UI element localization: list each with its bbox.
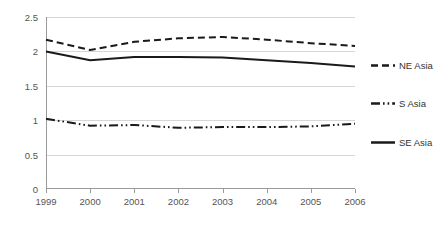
legend-item[interactable]: SE Asia	[371, 137, 432, 148]
x-axis-tick-label: 2004	[256, 196, 277, 207]
legend-label: NE Asia	[399, 60, 433, 71]
x-axis-tick	[355, 189, 356, 193]
x-axis-tick	[223, 189, 224, 193]
x-axis-tick-label: 2003	[212, 196, 233, 207]
y-axis-tick-label: 1	[2, 115, 38, 126]
y-axis-tick-label: 2.5	[2, 12, 38, 23]
line-chart: 00.511.522.5 199920002001200220032004200…	[0, 0, 440, 231]
legend-label: SE Asia	[399, 137, 432, 148]
y-axis-tick-label: 0.5	[2, 149, 38, 160]
x-axis-tick	[267, 189, 268, 193]
x-axis-tick-label: 2000	[80, 196, 101, 207]
x-axis-tick-label: 2005	[300, 196, 321, 207]
x-axis-tick	[311, 189, 312, 193]
y-axis-tick-label: 0	[2, 184, 38, 195]
legend-line-sample	[371, 98, 395, 108]
x-axis-tick-label: 2002	[168, 196, 189, 207]
legend-line-sample	[371, 60, 395, 70]
y-axis-tick-label: 2	[2, 46, 38, 57]
legend-item[interactable]: S Asia	[371, 98, 426, 109]
y-axis-tick-label: 1.5	[2, 80, 38, 91]
x-axis-tick	[178, 189, 179, 193]
legend-label: S Asia	[399, 98, 426, 109]
legend: NE AsiaS AsiaSE Asia	[371, 0, 440, 231]
x-axis-tick	[134, 189, 135, 193]
legend-line-sample	[371, 137, 395, 147]
x-axis-tick	[46, 189, 47, 193]
x-axis-tick-label: 1999	[35, 196, 56, 207]
legend-item[interactable]: NE Asia	[371, 60, 433, 71]
x-axis-tick	[90, 189, 91, 193]
x-axis-tick-label: 2006	[344, 196, 365, 207]
x-axis-tick-label: 2001	[124, 196, 145, 207]
